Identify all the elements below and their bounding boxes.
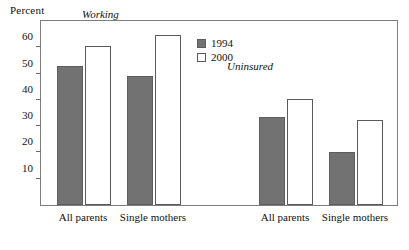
tick-mark-50 <box>36 73 41 74</box>
tick-mark-20 <box>36 151 41 152</box>
legend-swatch-2000-icon <box>197 53 206 62</box>
legend-swatch-1994-icon <box>197 39 206 48</box>
bar-working-all-parents-2000 <box>85 46 111 205</box>
bar-uninsured-single-mothers-2000 <box>357 120 383 205</box>
bar-uninsured-all-parents-1994 <box>259 117 285 205</box>
tick-mark-10 <box>36 178 41 179</box>
tick-mark-40 <box>36 99 41 100</box>
panel-title-working: Working <box>82 8 119 20</box>
tick-label-30: 30 <box>22 110 33 121</box>
y-axis-title: Percent <box>10 4 44 16</box>
tick-mark-60 <box>36 46 41 47</box>
panel-title-uninsured: Uninsured <box>227 60 273 72</box>
tick-label-10: 10 <box>22 162 33 173</box>
tick-mark-30 <box>36 125 41 126</box>
bar-working-all-parents-1994 <box>57 66 83 205</box>
tick-label-20: 20 <box>22 136 33 147</box>
tick-label-40: 40 <box>22 83 33 94</box>
group-label-working-all-parents: All parents <box>59 211 108 223</box>
bar-chart: Percent 60 50 40 30 20 10 <box>0 0 409 250</box>
legend-label-2000: 2000 <box>211 52 233 63</box>
bar-working-single-mothers-1994 <box>127 76 153 205</box>
legend-item-2000: 2000 <box>197 50 233 64</box>
group-label-working-single-mothers: Single mothers <box>120 211 186 223</box>
legend: 1994 2000 <box>197 36 233 64</box>
legend-label-1994: 1994 <box>211 38 233 49</box>
bar-uninsured-all-parents-2000 <box>287 99 313 205</box>
tick-label-60: 60 <box>22 31 33 42</box>
legend-item-1994: 1994 <box>197 36 233 50</box>
group-label-uninsured-single-mothers: Single mothers <box>322 211 388 223</box>
group-label-uninsured-all-parents: All parents <box>261 211 310 223</box>
tick-label-50: 50 <box>22 57 33 68</box>
bar-working-single-mothers-2000 <box>155 35 181 205</box>
bar-uninsured-single-mothers-1994 <box>329 152 355 205</box>
